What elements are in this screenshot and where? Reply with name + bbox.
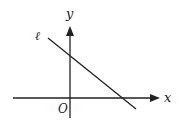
coordinate-diagram: y x O ℓ: [0, 0, 179, 123]
line-label: ℓ: [35, 29, 40, 43]
x-axis-label: x: [164, 90, 172, 105]
x-axis-arrow-icon: [150, 94, 160, 102]
y-axis-arrow-icon: [66, 26, 74, 36]
y-axis-label: y: [65, 6, 74, 21]
origin-label: O: [58, 102, 68, 116]
